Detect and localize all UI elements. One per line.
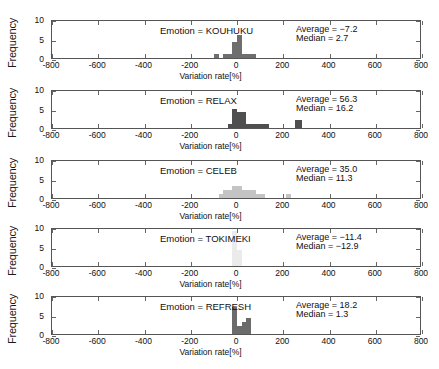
- x-tick-mark: [422, 330, 423, 334]
- x-tick-mark: [98, 330, 99, 334]
- x-tick-label: 0: [216, 337, 256, 346]
- x-tick-mark: [52, 124, 53, 128]
- y-tick-mark: [52, 297, 56, 298]
- x-tick-label: 200: [262, 131, 302, 140]
- y-axis-label: Frequency: [6, 221, 18, 281]
- x-tick-mark: [145, 262, 146, 266]
- y-axis-label: Frequency: [6, 13, 18, 73]
- x-tick-label: 600: [355, 201, 395, 210]
- x-tick-mark: [52, 54, 53, 58]
- y-tick-label: 5: [22, 36, 44, 45]
- x-tick-mark: [191, 124, 192, 128]
- y-tick-mark: [52, 111, 56, 112]
- x-tick-mark: [145, 330, 146, 334]
- x-tick-mark-top: [237, 91, 238, 95]
- x-tick-label: -800: [31, 201, 71, 210]
- x-tick-label: 800: [401, 61, 439, 70]
- x-tick-label: -800: [31, 61, 71, 70]
- x-tick-mark: [330, 262, 331, 266]
- x-tick-mark: [376, 262, 377, 266]
- y-tick-mark: [52, 21, 56, 22]
- plot-area: Emotion = CELEBAverage = 35.0Median = 11…: [51, 160, 421, 199]
- y-axis-label: Frequency: [6, 153, 18, 213]
- y-axis-label: Frequency: [6, 289, 18, 349]
- x-tick-mark-top: [98, 297, 99, 301]
- x-tick-mark: [376, 194, 377, 198]
- x-axis-label: Variation rate[%]: [0, 141, 421, 151]
- panel-emotion-label: Emotion = REFRESH: [160, 301, 251, 312]
- y-tick-mark-right: [416, 317, 420, 318]
- x-tick-mark: [283, 194, 284, 198]
- x-axis-label: Variation rate[%]: [0, 347, 421, 357]
- x-tick-label: 600: [355, 61, 395, 70]
- x-tick-label: -800: [31, 337, 71, 346]
- x-tick-label: -200: [170, 337, 210, 346]
- x-tick-label: -200: [170, 269, 210, 278]
- x-tick-mark-top: [376, 229, 377, 233]
- x-tick-mark: [52, 262, 53, 266]
- y-tick-label: 5: [22, 176, 44, 185]
- x-tick-label: 800: [401, 131, 439, 140]
- x-tick-mark: [191, 194, 192, 198]
- median-annotation: Median = 16.2: [296, 103, 353, 113]
- y-tick-mark-right: [416, 41, 420, 42]
- x-tick-mark: [98, 124, 99, 128]
- x-tick-label: -400: [124, 337, 164, 346]
- x-tick-label: 200: [262, 61, 302, 70]
- x-tick-mark-top: [283, 229, 284, 233]
- x-tick-mark-top: [376, 21, 377, 25]
- y-axis-label: Frequency: [6, 83, 18, 143]
- x-tick-label: -200: [170, 61, 210, 70]
- x-tick-label: -600: [77, 131, 117, 140]
- plot-area: Emotion = REFRESHAverage = 18.2Median = …: [51, 296, 421, 335]
- x-tick-label: 200: [262, 337, 302, 346]
- x-tick-label: 400: [309, 269, 349, 278]
- x-tick-mark: [376, 54, 377, 58]
- y-tick-mark: [52, 317, 56, 318]
- x-tick-label: 800: [401, 269, 439, 278]
- x-tick-mark-top: [283, 297, 284, 301]
- x-tick-mark-top: [376, 297, 377, 301]
- y-tick-label: 10: [22, 292, 44, 301]
- median-annotation: Median = −12.9: [296, 241, 359, 251]
- x-tick-label: -600: [77, 201, 117, 210]
- x-tick-mark: [145, 54, 146, 58]
- histogram-panel-relax: Frequency0510Emotion = RELAXAverage = 56…: [0, 81, 439, 151]
- x-tick-label: -400: [124, 269, 164, 278]
- x-tick-label: 0: [216, 201, 256, 210]
- histogram-panel-tokimeki: Frequency0510Emotion = TOKIMEKIAverage =…: [0, 219, 439, 289]
- panel-emotion-label: Emotion = TOKIMEKI: [160, 233, 251, 244]
- y-tick-mark-right: [416, 249, 420, 250]
- x-tick-mark-top: [98, 21, 99, 25]
- plot-area: Emotion = RELAXAverage = 56.3Median = 16…: [51, 90, 421, 129]
- x-tick-label: -200: [170, 131, 210, 140]
- x-tick-mark-top: [98, 229, 99, 233]
- x-tick-mark-top: [145, 297, 146, 301]
- x-tick-label: -400: [124, 131, 164, 140]
- panel-emotion-label: Emotion = KOUHUKU: [160, 25, 253, 36]
- histogram-bar: [265, 124, 270, 128]
- x-tick-mark: [330, 194, 331, 198]
- x-tick-label: 600: [355, 337, 395, 346]
- x-tick-label: 200: [262, 201, 302, 210]
- histogram-bar: [286, 194, 292, 198]
- x-tick-mark-top: [283, 161, 284, 165]
- y-tick-mark-right: [416, 21, 420, 22]
- x-tick-mark: [422, 262, 423, 266]
- x-tick-mark: [191, 330, 192, 334]
- histogram-bar: [237, 250, 242, 266]
- x-tick-mark-top: [376, 91, 377, 95]
- y-tick-mark-right: [416, 91, 420, 92]
- x-tick-label: -400: [124, 201, 164, 210]
- x-tick-label: 400: [309, 61, 349, 70]
- x-tick-label: -600: [77, 269, 117, 278]
- y-tick-label: 10: [22, 86, 44, 95]
- x-tick-mark-top: [145, 21, 146, 25]
- x-tick-label: 200: [262, 269, 302, 278]
- x-tick-mark: [422, 194, 423, 198]
- x-tick-label: -600: [77, 61, 117, 70]
- x-tick-label: 400: [309, 131, 349, 140]
- x-tick-mark: [283, 124, 284, 128]
- histogram-bar: [260, 194, 265, 198]
- histogram-bar: [251, 54, 256, 58]
